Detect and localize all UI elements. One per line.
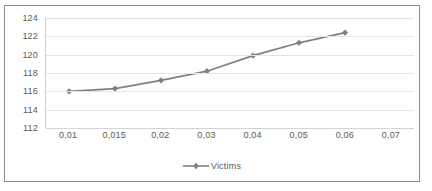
gridline-122: [46, 36, 414, 37]
y-tick-label-114: 114: [23, 105, 38, 114]
legend-marker-icon: [183, 161, 209, 171]
legend-entry-victims[interactable]: Victims: [183, 161, 241, 171]
chart-legend: Victims: [5, 156, 419, 176]
gridline-118: [46, 73, 414, 74]
x-tick-label-5: 0,05: [290, 130, 308, 140]
plot-area: [45, 18, 414, 128]
gridline-114: [46, 110, 414, 111]
y-tick-label-112: 112: [23, 124, 38, 133]
x-tick-label-4: 0,04: [243, 130, 261, 140]
gridline-124: [46, 18, 414, 19]
legend-label-victims: Victims: [211, 161, 241, 171]
x-tick-label-3: 0,03: [197, 130, 215, 140]
data-point-marker-6[interactable]: [342, 30, 348, 36]
chart-figure: 112114116118120122124 0,010,0150,020,030…: [4, 5, 420, 182]
y-axis: 112114116118120122124: [5, 18, 43, 128]
gridline-116: [46, 91, 414, 92]
y-tick-label-116: 116: [23, 87, 38, 96]
x-axis: 0,010,0150,020,030,040,050,060,07: [45, 130, 414, 146]
x-tick-label-0: 0,01: [59, 130, 77, 140]
series-polyline-victims: [69, 33, 345, 92]
data-point-marker-2[interactable]: [158, 77, 164, 83]
data-point-marker-5[interactable]: [296, 40, 302, 46]
y-tick-label-120: 120: [22, 50, 38, 59]
gridline-112: [46, 128, 414, 129]
x-tick-label-6: 0,06: [336, 130, 354, 140]
x-tick-label-1: 0,015: [102, 130, 126, 140]
y-tick-label-124: 124: [22, 14, 38, 23]
x-tick-label-7: 0,07: [382, 130, 400, 140]
y-tick-label-122: 122: [22, 32, 38, 41]
gridline-120: [46, 55, 414, 56]
x-tick-label-2: 0,02: [151, 130, 169, 140]
y-tick-label-118: 118: [23, 69, 38, 78]
